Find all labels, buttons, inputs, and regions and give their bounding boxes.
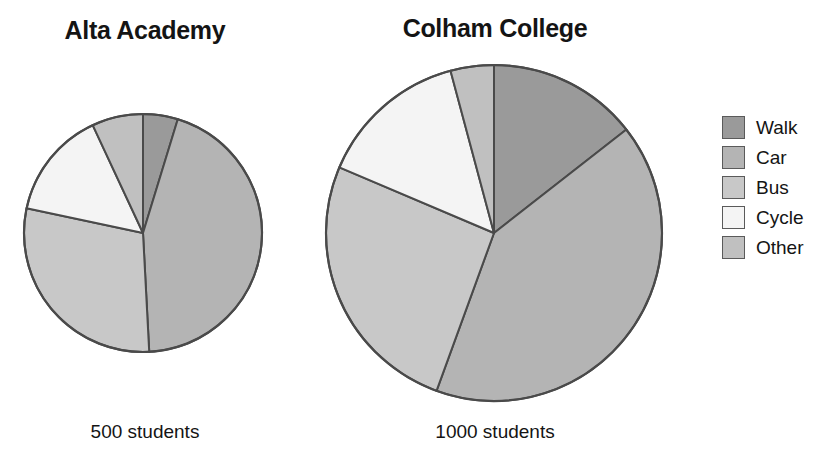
legend-label: Walk <box>756 118 798 137</box>
legend-label: Bus <box>756 178 789 197</box>
legend-item-cycle: Cycle <box>722 202 823 232</box>
legend-swatch-cycle-icon <box>722 206 745 229</box>
pie-charts-canvas <box>0 0 823 453</box>
chart-legend: WalkCarBusCycleOther <box>722 112 823 262</box>
legend-label: Car <box>756 148 787 167</box>
legend-swatch-other-icon <box>722 236 745 259</box>
legend-swatch-car-icon <box>722 146 745 169</box>
legend-swatch-walk-icon <box>722 116 745 139</box>
pie-colham-college <box>326 65 662 401</box>
legend-item-car: Car <box>722 142 823 172</box>
legend-item-bus: Bus <box>722 172 823 202</box>
legend-swatch-bus-icon <box>722 176 745 199</box>
legend-label: Other <box>756 238 804 257</box>
pie-chart-figure: Alta Academy Colham College 500 students… <box>0 0 823 453</box>
legend-label: Cycle <box>756 208 804 227</box>
chart-caption-colham-college: 1000 students <box>340 421 650 443</box>
pie-alta-academy <box>24 114 262 352</box>
chart-caption-alta-academy: 500 students <box>0 421 290 443</box>
legend-item-walk: Walk <box>722 112 823 142</box>
legend-item-other: Other <box>722 232 823 262</box>
